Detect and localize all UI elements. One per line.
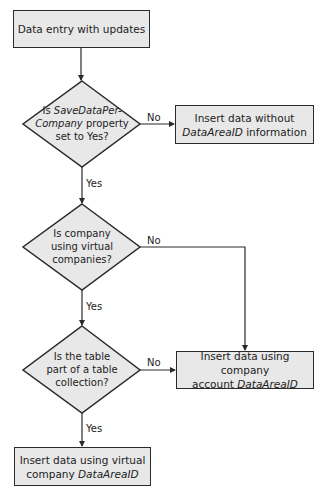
decision3-text: Is the table part of a table collection? <box>33 350 131 389</box>
result-text-italic: DataAreaID <box>237 378 298 390</box>
decision2-text: Is company using virtual companies? <box>33 227 131 266</box>
flowchart: Data entry with updates Is SaveDataPer- … <box>0 0 332 493</box>
start-text: Data entry with updates <box>18 22 146 36</box>
result-text-line: Insert data using virtual <box>20 453 146 467</box>
decision1-yes-label: Yes <box>86 178 102 190</box>
decision3-text-line: Is the table <box>33 350 131 363</box>
result-without-dataareaid-box: Insert data without DataAreaID informati… <box>175 105 314 144</box>
decision3-yes-label: Yes <box>86 423 102 435</box>
decision2-no-label: No <box>147 235 161 247</box>
decision3-text-line: part of a table <box>33 363 131 376</box>
decision1-text-part: set to Yes? <box>33 130 131 143</box>
decision1-text-italic: SaveDataPer- <box>54 105 122 116</box>
result-text-part: account <box>192 378 237 390</box>
decision2-yes-label: Yes <box>86 301 102 313</box>
decision1-no-label: No <box>147 112 161 124</box>
result-text-italic: DataAreaID <box>78 468 139 480</box>
result-company-account-box: Insert data using company account DataAr… <box>176 351 314 389</box>
result-text-part: information <box>243 126 307 138</box>
decision3-text-line: collection? <box>33 376 131 389</box>
decision1-text-part: Is <box>42 105 53 116</box>
arrow-decision2-no <box>140 247 245 350</box>
decision1-text: Is SaveDataPer- Company property set to … <box>33 104 131 143</box>
decision2-text-line: Is company <box>33 227 131 240</box>
decision2-text-line: companies? <box>33 253 131 266</box>
decision1-text-part: property <box>83 118 129 129</box>
result-text-line: Insert data using company <box>177 349 313 377</box>
result-text-line: Insert data without <box>195 111 295 125</box>
result-text-part: company <box>26 468 78 480</box>
result-text-italic: DataAreaID <box>182 126 243 138</box>
decision1-text-italic: Company <box>35 118 83 129</box>
result-virtual-company-box: Insert data using virtual company DataAr… <box>14 447 151 486</box>
decision2-text-line: using virtual <box>33 240 131 253</box>
start-box: Data entry with updates <box>13 10 150 48</box>
decision3-no-label: No <box>147 357 161 369</box>
